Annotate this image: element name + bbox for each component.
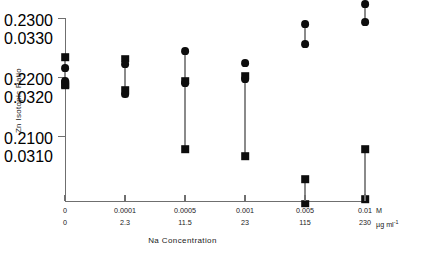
data-point-square-5-11 (361, 145, 369, 153)
y-tick-label-primary-0: 0.2300 (0, 12, 56, 30)
x-tick-label-mass-4: 115 (274, 217, 336, 229)
y-tick-label-primary-1: 0.2200 (0, 71, 56, 89)
x-tick-label-mass-2: 11.5 (154, 217, 216, 229)
data-point-square-3-8 (241, 152, 249, 160)
y-axis-title: Zn Isotopic Ratio (14, 53, 23, 149)
y-tick-label-group-top: 0.2300 0.0330 (0, 12, 56, 48)
data-point-square-2-6 (181, 145, 189, 153)
data-point-circle-3-7 (241, 75, 249, 83)
x-tick-1 (124, 195, 125, 201)
data-point-circle-0-0 (61, 64, 69, 72)
x-tick-0 (64, 195, 65, 201)
y-tick-label-group-mid: 0.2200 0.0320 (0, 71, 56, 107)
x-tick-label-col-0: 00 (34, 205, 96, 228)
x-tick-label-molarity-3: 0.001 (214, 205, 276, 217)
x-tick-label-col-1: 0.00012.3 (94, 205, 156, 228)
y-tick-label-secondary-0: 0.0330 (0, 30, 56, 48)
x-tick-label-molarity-5: 0.01 (334, 205, 396, 217)
data-connector-2 (244, 79, 245, 156)
data-point-circle-2-4 (181, 47, 189, 55)
y-axis-line (65, 18, 66, 202)
data-point-circle-5-10 (361, 0, 369, 8)
x-tick-label-col-3: 0.00123 (214, 205, 276, 228)
x-tick-label-molarity-0: 0 (34, 205, 96, 217)
y-tick-label-secondary-1: 0.0320 (0, 89, 56, 107)
data-point-square-4-9 (301, 175, 309, 183)
y-tick-label-group-bottom: 0.2100 0.0310 (0, 130, 56, 166)
data-point-circle-5-11 (361, 18, 369, 26)
data-point-circle-3-6 (241, 59, 249, 67)
x-unit-mass-text: µg ml (376, 220, 394, 229)
x-tick-label-col-2: 0.000511.5 (154, 205, 216, 228)
y-tick-0.2100 (58, 136, 65, 137)
data-point-circle-4-8 (301, 20, 309, 28)
x-tick-label-molarity-1: 0.0001 (94, 205, 156, 217)
x-tick-label-molarity-4: 0.005 (274, 205, 336, 217)
x-axis-title: Na Concentration (0, 236, 365, 245)
data-point-circle-1-3 (121, 91, 129, 99)
x-axis-end-tick (364, 194, 365, 201)
x-unit-mass-concentration: µg ml-1 (376, 217, 399, 231)
data-connector-1 (184, 51, 185, 149)
x-tick-label-mass-1: 2.3 (94, 217, 156, 229)
data-point-circle-2-5 (181, 79, 189, 87)
y-tick-0.2300 (58, 18, 65, 19)
x-tick-4 (304, 195, 305, 201)
data-point-circle-0-1 (61, 77, 69, 85)
data-connector-6 (364, 149, 365, 199)
y-tick-label-primary-2: 0.2100 (0, 130, 56, 148)
data-point-circle-4-9 (301, 40, 309, 48)
x-axis-line (65, 201, 365, 202)
x-tick-label-col-4: 0.005115 (274, 205, 336, 228)
x-tick-label-mass-0: 0 (34, 217, 96, 229)
x-tick-2 (184, 195, 185, 201)
x-unit-molarity: M (376, 205, 382, 217)
data-point-square-0-0 (61, 53, 69, 61)
data-point-circle-1-2 (121, 60, 129, 68)
x-unit-mass-exponent: -1 (394, 219, 399, 225)
x-tick-label-mass-3: 23 (214, 217, 276, 229)
x-tick-label-molarity-2: 0.0005 (154, 205, 216, 217)
x-tick-3 (244, 195, 245, 201)
y-tick-label-secondary-2: 0.0310 (0, 148, 56, 166)
chart-figure: 0.2300 0.0330 0.2200 0.0320 0.2100 0.031… (0, 0, 423, 258)
